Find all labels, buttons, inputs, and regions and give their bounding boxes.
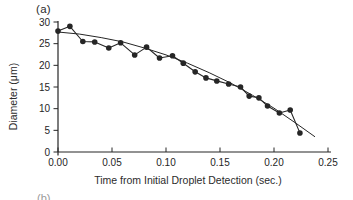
measured-droplet-diameter-marker <box>132 52 138 58</box>
measured-droplet-diameter-marker <box>67 24 73 30</box>
measured-droplet-diameter-marker <box>80 39 86 45</box>
measured-droplet-diameter-marker <box>92 39 98 45</box>
y-tick-label: 15 <box>39 82 51 93</box>
x-tick-label: 0.15 <box>210 157 230 168</box>
droplet-diameter-figure: (a) Diameter (μm) 0.000.050.100.150.200.… <box>0 0 353 200</box>
x-tick-label: 0.00 <box>48 157 68 168</box>
chart-canvas: 0.000.050.100.150.200.25051015202530 <box>0 0 353 200</box>
measured-droplet-diameter-marker <box>297 130 303 136</box>
measured-droplet-diameter-marker <box>55 28 61 34</box>
x-tick-label: 0.10 <box>156 157 176 168</box>
measured-droplet-diameter-marker <box>214 78 220 84</box>
x-axis-title: Time from Initial Droplet Detection (sec… <box>48 174 328 186</box>
measured-droplet-diameter-marker <box>192 69 198 75</box>
y-tick-label: 5 <box>44 125 50 136</box>
panel-label-b: (b) <box>37 192 50 200</box>
measured-droplet-diameter-marker <box>287 107 293 113</box>
measured-droplet-diameter-marker <box>203 75 209 81</box>
y-tick-label: 20 <box>39 60 51 71</box>
y-tick-label: 0 <box>44 147 50 158</box>
trend-fit-line-line <box>58 32 315 137</box>
y-tick-label: 10 <box>39 103 51 114</box>
y-tick-label: 30 <box>39 17 51 28</box>
x-tick-label: 0.25 <box>318 157 338 168</box>
measured-droplet-diameter-marker <box>157 55 163 61</box>
x-tick-label: 0.05 <box>102 157 122 168</box>
measured-droplet-diameter-marker <box>106 45 112 51</box>
axes-lines <box>58 21 331 156</box>
x-tick-label: 0.20 <box>264 157 284 168</box>
y-tick-label: 25 <box>39 38 51 49</box>
